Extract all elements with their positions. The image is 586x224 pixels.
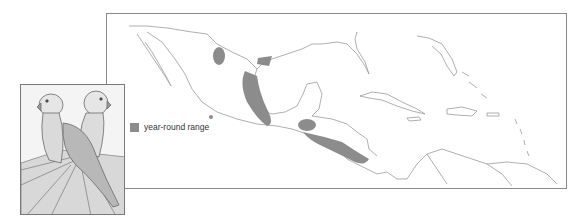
map-legend: year-round range	[130, 122, 209, 132]
legend-label: year-round range	[144, 122, 209, 132]
range-map	[106, 13, 567, 189]
range-areas	[209, 47, 369, 163]
bird-illustration	[20, 84, 125, 215]
legend-swatch-year-round	[130, 123, 139, 132]
parakeet-drawing	[21, 85, 125, 215]
map-outline	[107, 14, 568, 190]
